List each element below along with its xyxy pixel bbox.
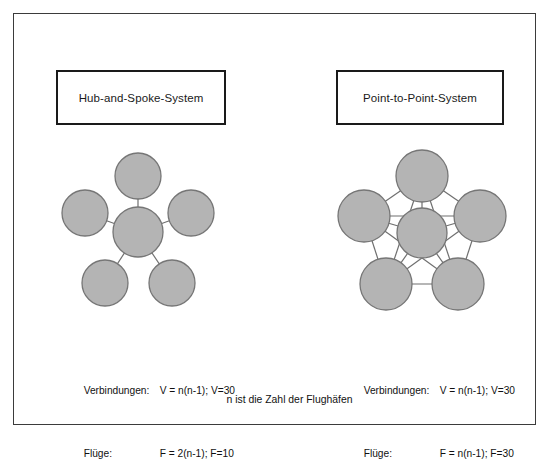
formula-label-flights-right: Flüge: xyxy=(364,448,440,461)
page-border-frame: Hub-and-Spoke-System Point-to-Point-Syst… xyxy=(13,13,536,425)
formula-label-flights-left: Flüge: xyxy=(84,448,160,461)
hub-spoke-node-spoke xyxy=(168,190,214,236)
hub-spoke-node-spoke xyxy=(115,153,161,199)
formula-value-flights-left: F = 2(n-1); F=10 xyxy=(160,448,234,459)
title-box-point-to-point: Point-to-Point-System xyxy=(336,70,504,125)
point-to-point-node-point xyxy=(432,258,484,310)
title-label-hub-and-spoke: Hub-and-Spoke-System xyxy=(79,92,204,104)
formula-block-point-to-point: Verbindungen:V = n(n-1); V=30 Flüge:F = … xyxy=(341,347,515,463)
point-to-point-node-point xyxy=(360,258,412,310)
point-to-point-node-point xyxy=(338,190,390,242)
footnote-text: n ist die Zahl der Flughäfen xyxy=(14,394,551,405)
hub-spoke-node-spoke xyxy=(82,260,128,306)
formula-value-flights-right: F = n(n-1); F=30 xyxy=(440,448,514,459)
title-box-hub-and-spoke: Hub-and-Spoke-System xyxy=(56,70,226,125)
title-label-point-to-point: Point-to-Point-System xyxy=(363,92,477,104)
formula-block-hub-and-spoke: Verbindungen:V = n(n-1); V=30 Flüge:F = … xyxy=(61,347,235,463)
point-to-point-node-point xyxy=(454,190,506,242)
point-to-point-node-group xyxy=(338,150,506,310)
hub-spoke-node-spoke xyxy=(62,190,108,236)
diagram-hub-and-spoke xyxy=(52,142,232,324)
diagram-point-to-point xyxy=(332,142,512,324)
hub-spoke-node-group xyxy=(62,153,214,306)
hub-spoke-node-hub xyxy=(113,207,163,257)
formula-row-flights-right: Flüge:F = n(n-1); F=30 xyxy=(341,435,515,463)
point-to-point-node-point xyxy=(396,150,448,202)
point-to-point-node-center xyxy=(397,208,447,258)
formula-row-flights-left: Flüge:F = 2(n-1); F=10 xyxy=(61,435,235,463)
hub-spoke-node-spoke xyxy=(149,260,195,306)
